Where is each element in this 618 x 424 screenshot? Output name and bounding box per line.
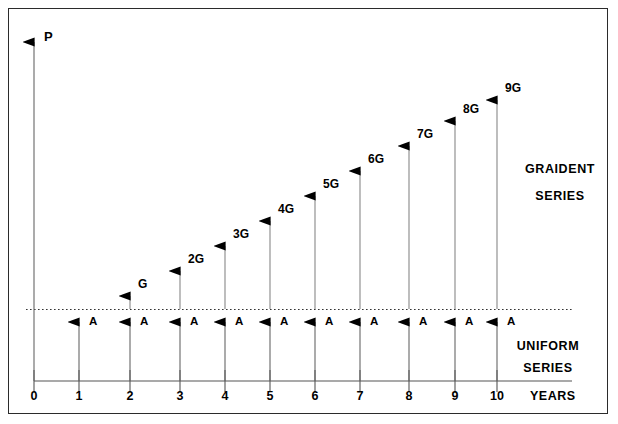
uniform-label-9: A — [465, 316, 473, 328]
gradient-label-8: 7G — [417, 128, 433, 140]
year-label-5: 5 — [267, 390, 274, 403]
uniform-label-2: A — [140, 316, 148, 328]
year-label-0: 0 — [31, 390, 38, 403]
gradient-series-arrows — [130, 100, 497, 309]
gradient-series-caption-line1: GRAIDENT — [525, 163, 595, 176]
uniform-label-10: A — [507, 316, 515, 328]
cash-flow-diagram: P 0 1 2 3 4 5 6 7 8 9 10 YEARS A A A A A… — [0, 0, 618, 424]
year-label-7: 7 — [357, 390, 364, 403]
uniform-label-1: A — [89, 316, 97, 328]
gradient-label-3: 2G — [188, 253, 204, 265]
gradient-label-7: 6G — [368, 153, 384, 165]
uniform-series-arrows — [79, 322, 497, 381]
uniform-series-caption-line1: UNIFORM — [517, 340, 580, 353]
uniform-series-caption-line2: SERIES — [523, 362, 572, 375]
uniform-label-8: A — [419, 316, 427, 328]
gradient-label-6: 5G — [323, 178, 339, 190]
uniform-label-4: A — [235, 316, 243, 328]
uniform-label-6: A — [325, 316, 333, 328]
uniform-label-7: A — [370, 316, 378, 328]
year-label-4: 4 — [222, 390, 229, 403]
year-label-3: 3 — [177, 390, 184, 403]
gradient-series-caption-line2: SERIES — [535, 190, 584, 203]
gradient-label-5: 4G — [278, 203, 294, 215]
year-label-6: 6 — [312, 390, 319, 403]
year-label-2: 2 — [127, 390, 134, 403]
gradient-label-10: 9G — [505, 82, 521, 94]
year-label-9: 9 — [452, 390, 459, 403]
years-axis-caption: YEARS — [530, 390, 576, 403]
uniform-label-5: A — [280, 316, 288, 328]
uniform-label-3: A — [190, 316, 198, 328]
year-label-1: 1 — [76, 390, 83, 403]
present-worth-label: P — [44, 30, 53, 43]
gradient-label-9: 8G — [463, 103, 479, 115]
gradient-label-2: G — [138, 278, 147, 290]
gradient-label-4: 3G — [233, 228, 249, 240]
year-label-10: 10 — [490, 390, 504, 403]
year-label-8: 8 — [406, 390, 413, 403]
